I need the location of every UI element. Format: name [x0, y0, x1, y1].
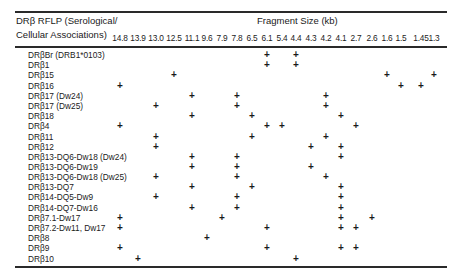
fragment-present-mark: + — [219, 213, 225, 223]
row-label: DRβ9 — [28, 243, 49, 253]
fragment-present-mark: + — [135, 254, 141, 264]
fragment-present-mark: + — [338, 223, 344, 233]
fragment-present-mark: + — [117, 243, 123, 253]
column-header: 11.1 — [185, 33, 200, 43]
fragment-present-mark: + — [264, 243, 270, 253]
fragment-present-mark: + — [189, 182, 195, 192]
fragment-present-mark: + — [338, 192, 344, 202]
column-header: 1.5 — [396, 33, 407, 43]
column-header: 1.45 — [413, 33, 428, 43]
column-header: 7.8 — [232, 33, 243, 43]
table-bottom-rule — [15, 266, 447, 268]
fragment-present-mark: + — [189, 203, 195, 213]
column-header: 6.1 — [262, 33, 273, 43]
fragment-present-mark: + — [117, 81, 123, 91]
row-label: DRβ13-DQ6-Dw19 — [28, 162, 98, 172]
column-header: 13.9 — [130, 33, 145, 43]
column-header: 9.6 — [202, 33, 213, 43]
fragment-present-mark: + — [353, 121, 359, 131]
fragment-present-mark: + — [153, 142, 159, 152]
row-label: DRβ18 — [28, 111, 54, 121]
fragment-present-mark: + — [171, 70, 177, 80]
fragment-present-mark: + — [249, 182, 255, 192]
fragment-present-mark: + — [189, 111, 195, 121]
fragment-present-mark: + — [338, 111, 344, 121]
row-label: DRβ4 — [28, 121, 49, 131]
row-header: DRβ RFLP (Serological/ Cellular Associat… — [16, 14, 117, 42]
column-header: 1.3 — [429, 33, 440, 43]
row-label: DRβBr (DRB1*0103) — [28, 50, 105, 60]
fragment-present-mark: + — [323, 132, 329, 142]
row-label: DRβ7.2-Dw11, Dw17 — [28, 223, 105, 233]
column-header: 4.2 — [321, 33, 332, 43]
row-label: DRβ17 (Dw24) — [28, 91, 83, 101]
row-label: DRβ7.1-Dw17 — [28, 213, 80, 223]
fragment-present-mark: + — [431, 70, 437, 80]
row-label: DRβ15 — [28, 70, 54, 80]
fragment-present-mark: + — [234, 192, 240, 202]
fragment-present-mark: + — [264, 60, 270, 70]
fragment-present-mark: + — [293, 254, 299, 264]
fragment-present-mark: + — [153, 101, 159, 111]
fragment-present-mark: + — [249, 132, 255, 142]
row-label: DRβ13-DQ6-Dw18 (Dw24) — [28, 152, 127, 162]
row-label: DRβ1 — [28, 60, 49, 70]
column-header: 13.0 — [148, 33, 163, 43]
row-label: DRβ11 — [28, 132, 53, 142]
fragment-present-mark: + — [323, 172, 329, 182]
fragment-present-mark: + — [338, 152, 344, 162]
fragment-present-mark: + — [264, 223, 270, 233]
column-header: 7.9 — [217, 33, 228, 43]
fragment-present-mark: + — [234, 172, 240, 182]
row-label: DRβ13-DQ7 — [28, 182, 74, 192]
column-header: 4.1 — [336, 33, 347, 43]
fragment-present-mark: + — [204, 233, 210, 243]
fragment-present-mark: + — [338, 243, 344, 253]
row-label: DRβ13-DQ6-Dw18 (Dw25) — [28, 172, 127, 182]
fragment-present-mark: + — [308, 162, 314, 172]
fragment-present-mark: + — [353, 223, 359, 233]
row-header-line2: Cellular Associations) — [16, 28, 117, 42]
fragment-present-mark: + — [189, 91, 195, 101]
row-label: DRβ14-DQ7-Dw16 — [28, 203, 98, 213]
header-rule — [15, 46, 447, 48]
row-header-line1: DRβ RFLP (Serological/ — [16, 14, 117, 28]
row-label: DRβ12 — [28, 142, 54, 152]
column-header: 4.3 — [306, 33, 317, 43]
row-label: DRβ14-DQ5-Dw9 — [28, 192, 93, 202]
fragment-present-mark: + — [369, 213, 375, 223]
fragment-size-header: Fragment Size (kb) — [257, 14, 338, 28]
fragment-present-mark: + — [117, 223, 123, 233]
column-header: 12.5 — [166, 33, 181, 43]
fragment-present-mark: + — [249, 111, 255, 121]
row-label: DRβ10 — [28, 254, 54, 264]
fragment-present-mark: + — [293, 60, 299, 70]
fragment-present-mark: + — [153, 192, 159, 202]
row-label: DRβ17 (Dw25) — [28, 101, 83, 111]
fragment-present-mark: + — [153, 172, 159, 182]
column-header: 4.4 — [291, 33, 302, 43]
column-header: 14.8 — [112, 33, 127, 43]
fragment-present-mark: + — [234, 203, 240, 213]
row-label: DRβ8 — [28, 233, 49, 243]
column-header: 1.6 — [382, 33, 393, 43]
fragment-present-mark: + — [234, 101, 240, 111]
fragment-present-mark: + — [323, 101, 329, 111]
column-header: 5.4 — [277, 33, 288, 43]
column-header: 2.7 — [351, 33, 362, 43]
fragment-present-mark: + — [117, 121, 123, 131]
fragment-present-mark: + — [279, 121, 285, 131]
fragment-present-mark: + — [189, 162, 195, 172]
fragment-present-mark: + — [353, 243, 359, 253]
column-header: 6.5 — [247, 33, 258, 43]
row-label: DRβ16 — [28, 81, 54, 91]
fragment-present-mark: + — [384, 70, 390, 80]
column-header: 2.6 — [367, 33, 378, 43]
fragment-present-mark: + — [308, 142, 314, 152]
fragment-present-mark: + — [264, 121, 270, 131]
fragment-present-mark: + — [418, 81, 424, 91]
table-top-rule — [15, 11, 447, 13]
fragment-present-mark: + — [398, 81, 404, 91]
